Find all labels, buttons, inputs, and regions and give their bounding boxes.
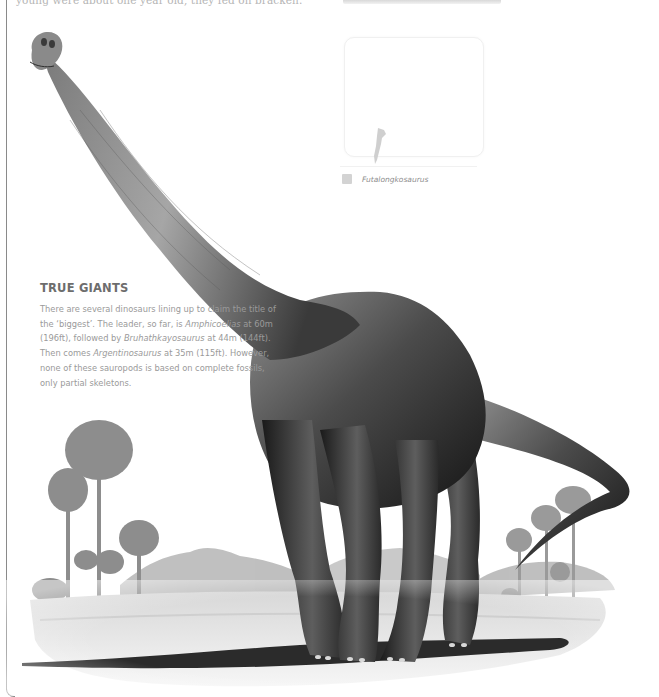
map-legend: Futalongkosaurus: [342, 174, 428, 184]
feature-body: There are several dinosaurs lining up to…: [40, 302, 280, 390]
species-name: Argentinosaurus: [93, 348, 161, 358]
tail: [470, 395, 629, 570]
legend-label: Futalongkosaurus: [362, 175, 428, 184]
feature-title: TRUE GIANTS: [40, 281, 280, 295]
argentina-map-shape: [372, 128, 388, 164]
feature-box: TRUE GIANTS There are several dinosaurs …: [40, 281, 280, 390]
species-name: Amphicoelias: [185, 319, 240, 329]
species-name: Bruhathkayosaurus: [124, 333, 205, 343]
range-map: [344, 37, 484, 157]
map-divider: [340, 166, 477, 167]
head: [31, 32, 62, 70]
background-trees-left: [32, 420, 159, 605]
legend-swatch: [342, 174, 352, 184]
